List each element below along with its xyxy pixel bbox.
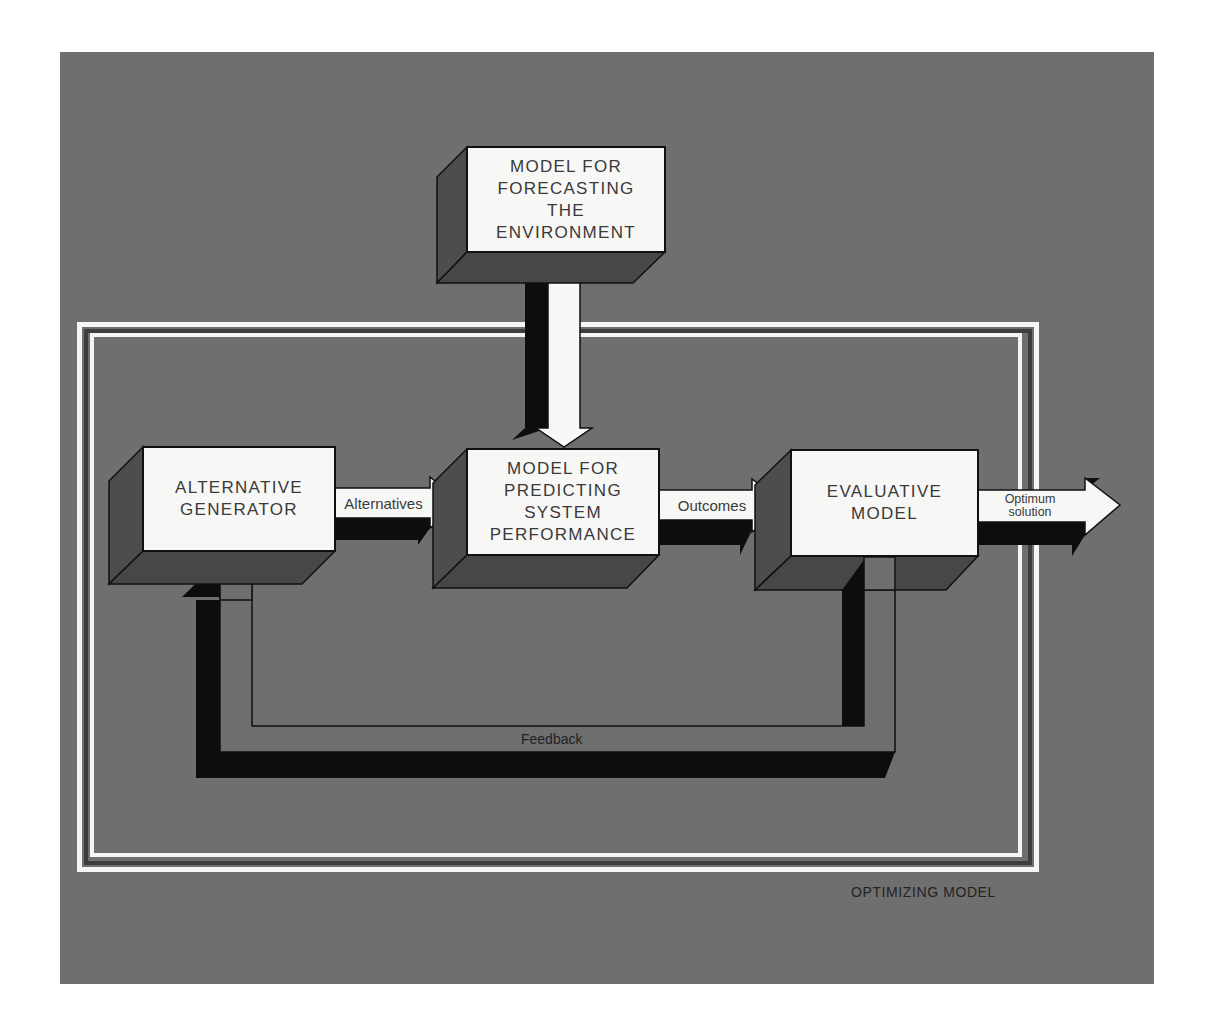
optimizing-model-label: OPTIMIZING MODEL	[851, 884, 996, 900]
forecast-line-4: ENVIRONMENT	[496, 222, 636, 244]
optimum-line-2: solution	[1008, 506, 1051, 519]
generator-line-1: ALTERNATIVE	[175, 477, 303, 499]
diagram-canvas: MODEL FOR FORECASTING THE ENVIRONMENT AL…	[0, 0, 1223, 1028]
forecast-line-2: FORECASTING	[497, 178, 634, 200]
predict-line-1: MODEL FOR	[507, 458, 619, 480]
evaluate-line-2: MODEL	[851, 503, 918, 525]
outcomes-label: Outcomes	[660, 491, 764, 519]
forecast-box-label: MODEL FOR FORECASTING THE ENVIRONMENT	[467, 147, 665, 252]
forecast-line-1: MODEL FOR	[510, 156, 622, 178]
forecast-line-3: THE	[547, 200, 585, 222]
predict-line-4: PERFORMANCE	[490, 524, 637, 546]
feedback-label: Feedback	[521, 731, 582, 747]
generator-line-2: GENERATOR	[180, 499, 298, 521]
predict-box-label: MODEL FOR PREDICTING SYSTEM PERFORMANCE	[467, 449, 659, 555]
evaluate-box-label: EVALUATIVE MODEL	[791, 450, 978, 556]
generator-box-label: ALTERNATIVE GENERATOR	[143, 447, 335, 551]
evaluate-line-1: EVALUATIVE	[827, 481, 942, 503]
predict-line-2: PREDICTING	[504, 480, 622, 502]
optimum-solution-label: Optimum solution	[980, 491, 1080, 521]
alternatives-label: Alternatives	[337, 489, 430, 517]
predict-line-3: SYSTEM	[524, 502, 602, 524]
